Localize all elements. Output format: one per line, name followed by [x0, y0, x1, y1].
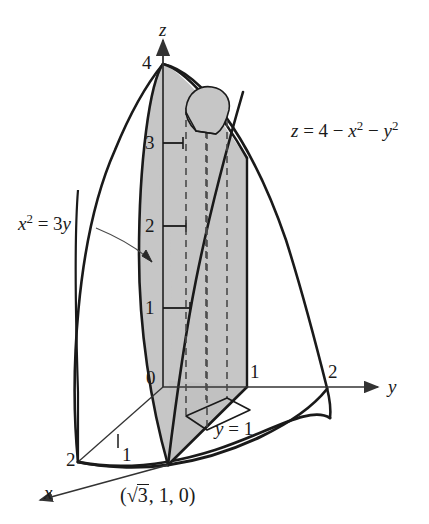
paraboloid-equation-label: z = 4 − x2 − y2: [291, 120, 398, 140]
x-axis-label: x: [44, 483, 52, 502]
x2-upper-guide: [76, 190, 78, 392]
y-axis-label: y: [388, 377, 396, 396]
y-tick-label-2: 2: [328, 362, 338, 381]
figure-container: z 4 3 2 1 0 1 2 y 1 2 x z = 4 − x2 − y2 …: [0, 0, 429, 524]
x-tick-label-2: 2: [66, 450, 76, 469]
z-tick-label-2: 2: [145, 216, 155, 235]
y-tick-label-1: 1: [250, 362, 260, 381]
x-tick-label-1: 1: [122, 445, 132, 464]
z-tick-label-3: 3: [145, 133, 155, 152]
cylinder-equation-label: x2 = 3y: [18, 213, 71, 233]
point-coordinates-label: (√3, 1, 0): [120, 484, 195, 505]
solid-region-diagram: [0, 0, 429, 524]
plane-equation-label: y = 1: [215, 419, 253, 438]
z-tick-label-1: 1: [145, 298, 155, 317]
surface-patch-top: [186, 87, 229, 134]
z-tick-label-4: 4: [142, 53, 152, 72]
paraboloid-yz-trace-lower: [327, 388, 330, 418]
origin-label: 0: [146, 368, 156, 387]
z-axis-label: z: [159, 20, 166, 39]
